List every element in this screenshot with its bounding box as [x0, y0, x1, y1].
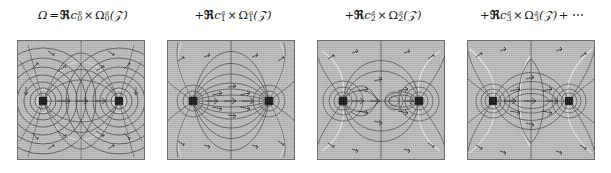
formula-1-argument: (𝒵): [253, 8, 271, 22]
formula-3-c-sub: 3: [507, 14, 512, 23]
formula-2-plus: +: [344, 8, 354, 22]
formula-0-argument: (𝒵): [110, 8, 128, 22]
field-plot-0: [17, 40, 145, 160]
formula-1-omega: Ω: [239, 8, 249, 22]
field-plot-3: [467, 40, 595, 160]
formula-0-lhs: Ω: [38, 8, 48, 22]
formula-3-frak-R: ℜ: [490, 8, 500, 22]
formula-0: Ω=ℜcdl0×Ωdl0(𝒵): [8, 8, 158, 23]
formula-0-equals: =: [48, 8, 61, 22]
formula-2-omega: Ω: [389, 8, 399, 22]
formula-1-times: ×: [226, 8, 239, 22]
field-plot-1-svg: [168, 41, 294, 159]
formula-1-plus: +: [194, 8, 204, 22]
field-plot-3-svg: [468, 41, 594, 159]
formula-0-times: ×: [82, 8, 95, 22]
formula-2-times: ×: [376, 8, 389, 22]
formula-0-omega: Ω: [95, 8, 105, 22]
panel-group-2: +ℜcdl2×Ωdl2(𝒵): [308, 0, 458, 173]
formula-3-trailing: + ⋯: [557, 8, 586, 22]
formula-2-argument: (𝒵): [403, 8, 421, 22]
formula-3: +ℜcdl3×Ωdl3(𝒵)+ ⋯: [458, 8, 608, 23]
panel-group-3: +ℜcdl3×Ωdl3(𝒵)+ ⋯: [458, 0, 608, 173]
formula-2-frak-R: ℜ: [354, 8, 364, 22]
formula-0-frak-R: ℜ: [60, 8, 70, 22]
formula-3-argument: (𝒵): [539, 8, 557, 22]
formula-3-omega: Ω: [524, 8, 534, 22]
field-plot-2: [317, 40, 445, 160]
field-plot-1: [167, 40, 295, 160]
formula-3-times: ×: [512, 8, 525, 22]
field-plot-0-svg: [18, 41, 144, 159]
field-plot-2-svg: [318, 41, 444, 159]
formula-2: +ℜcdl2×Ωdl2(𝒵): [308, 8, 458, 23]
formula-1: +ℜcdl1×Ωdl1(𝒵): [158, 8, 308, 23]
formula-3-plus: +: [480, 8, 490, 22]
formula-1-frak-R: ℜ: [204, 8, 214, 22]
multipole-decomposition-figure: Ω=ℜcdl0×Ωdl0(𝒵): [0, 0, 611, 173]
panel-group-0: Ω=ℜcdl0×Ωdl0(𝒵): [8, 0, 158, 173]
panel-group-1: +ℜcdl1×Ωdl1(𝒵): [158, 0, 308, 173]
